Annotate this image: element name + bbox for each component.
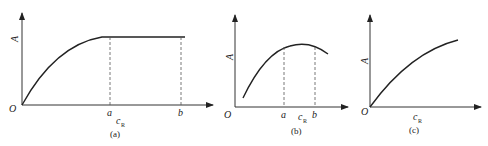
tick-b-label: b (312, 109, 317, 120)
curve-c (370, 40, 458, 107)
x-label-sub: R (418, 118, 422, 124)
tick-a-label: a (107, 107, 112, 118)
panel-b: A O a b c R (b) (224, 15, 348, 136)
figure-svg: A O a b c R (a) A O a b c R (b) A O c R … (0, 0, 488, 146)
caption-c: (c) (409, 125, 419, 135)
y-label: A (224, 53, 235, 61)
origin-label: O (361, 106, 368, 117)
panel-c: A O c R (c) (359, 15, 481, 135)
tick-b-label: b (178, 107, 183, 118)
curve-a (22, 37, 185, 105)
origin-label: O (224, 109, 231, 120)
origin-label: O (9, 103, 16, 114)
panel-a: A O a b c R (a) (9, 13, 213, 139)
y-label: A (9, 35, 20, 43)
caption-a: (a) (110, 129, 120, 139)
tick-a-label: a (281, 109, 286, 120)
x-label-sub: R (303, 118, 307, 124)
y-label: A (359, 57, 370, 65)
caption-b: (b) (291, 126, 302, 136)
x-label-sub: R (121, 122, 125, 128)
figure-canvas: A O a b c R (a) A O a b c R (b) A O c R … (0, 0, 488, 146)
